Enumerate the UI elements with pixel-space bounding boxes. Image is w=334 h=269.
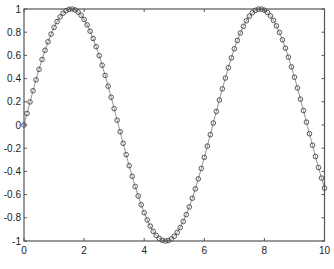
series-line	[24, 9, 325, 241]
x-tick-label: 8	[262, 245, 268, 256]
data-series	[22, 7, 327, 244]
sine-chart: 0246810 -1-0.8-0.6-0.4-0.200.20.40.60.81	[0, 0, 334, 269]
x-tick-label: 2	[81, 245, 87, 256]
axes-box	[24, 9, 325, 241]
x-tick-label: 10	[319, 245, 331, 256]
y-tick-label: 0.6	[7, 50, 21, 61]
x-tick-label: 4	[141, 245, 147, 256]
y-axis-ticks: -1-0.8-0.6-0.4-0.200.20.40.60.81	[4, 4, 325, 247]
y-tick-label: -0.6	[4, 189, 22, 200]
x-tick-label: 0	[21, 245, 27, 256]
y-tick-label: 0	[15, 120, 21, 131]
y-tick-label: -0.4	[4, 166, 22, 177]
x-tick-label: 6	[202, 245, 208, 256]
y-tick-label: 0.4	[7, 73, 21, 84]
y-tick-label: -0.8	[4, 212, 22, 223]
axes	[24, 9, 325, 241]
y-tick-label: 0.8	[7, 27, 21, 38]
y-tick-label: 0.2	[7, 96, 21, 107]
y-tick-label: -1	[12, 236, 21, 247]
y-tick-label: -0.2	[4, 143, 22, 154]
y-tick-label: 1	[15, 4, 21, 15]
